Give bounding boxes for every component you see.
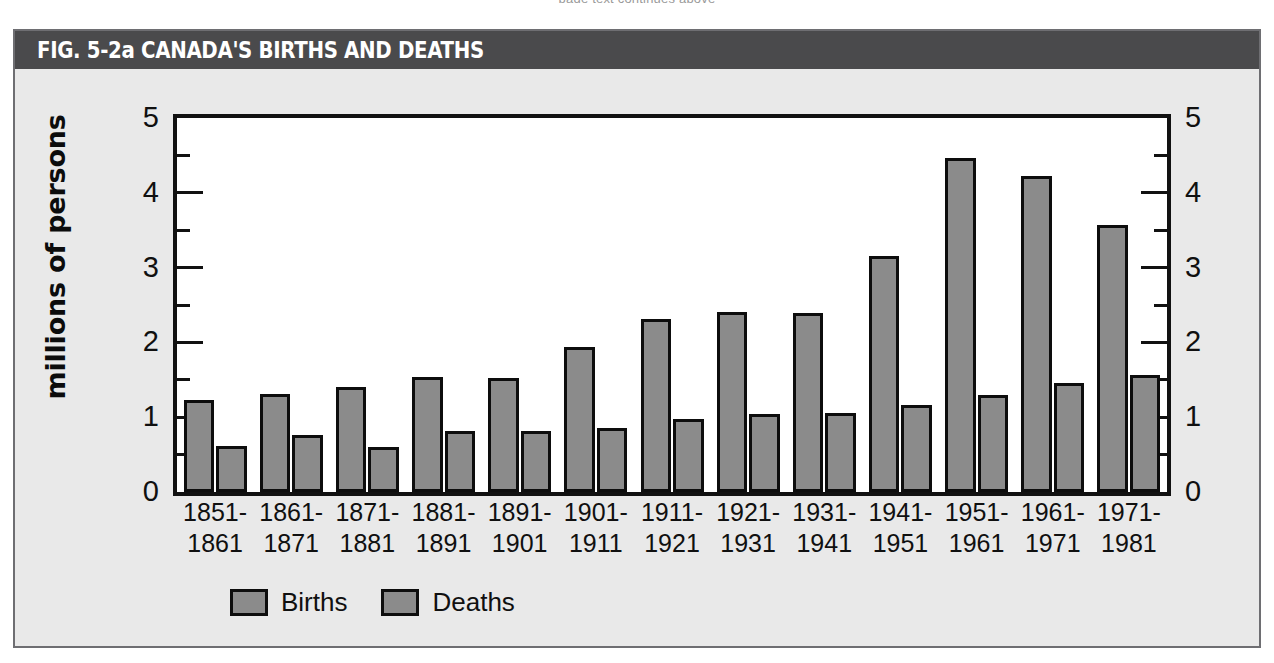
x-axis-label-line: 1891	[405, 528, 481, 559]
y-axis-label-right-3: 3	[1185, 253, 1225, 282]
bar-deaths-12	[1130, 375, 1161, 492]
bar-births-0	[184, 400, 215, 492]
bar-births-1	[260, 394, 291, 492]
y-axis-minor-tick-left	[177, 229, 190, 232]
x-axis-label-line: 1881	[329, 528, 405, 559]
x-axis-label-line: 1921-	[710, 497, 786, 528]
bar-deaths-7	[749, 414, 780, 492]
x-axis-label-line: 1941	[786, 528, 862, 559]
y-axis-label-right-1: 1	[1185, 402, 1225, 431]
chart-legend: BirthsDeaths	[230, 587, 515, 618]
x-axis-label-line: 1861	[177, 528, 253, 559]
x-axis-label-line: 1871	[253, 528, 329, 559]
x-axis-label-11: 1961-1971	[1015, 497, 1091, 558]
legend-swatch-deaths	[381, 589, 419, 616]
bar-births-7	[717, 312, 748, 492]
y-axis-label-left-1: 1	[119, 402, 159, 431]
y-axis-minor-tick-left	[177, 378, 190, 381]
x-axis-label-line: 1871-	[329, 497, 405, 528]
bar-deaths-11	[1054, 383, 1085, 492]
x-axis-label-6: 1911-1921	[634, 497, 710, 558]
legend-label-deaths: Deaths	[432, 587, 514, 618]
y-axis-label-left-3: 3	[119, 253, 159, 282]
x-axis-label-line: 1981	[1091, 528, 1167, 559]
bar-births-4	[488, 378, 519, 492]
x-axis-label-1: 1861-1871	[253, 497, 329, 558]
bar-deaths-10	[978, 395, 1009, 492]
x-axis-label-line: 1961-	[1015, 497, 1091, 528]
x-axis-label-9: 1941-1951	[862, 497, 938, 558]
bar-deaths-2	[368, 447, 399, 492]
x-axis-label-3: 1881-1891	[405, 497, 481, 558]
x-axis-label-line: 1941-	[862, 497, 938, 528]
y-axis-minor-tick-left	[177, 154, 190, 157]
bar-deaths-0	[216, 446, 247, 492]
page-bleed-text: page text continues above	[0, 0, 1274, 3]
legend-swatch-births	[230, 589, 268, 616]
figure-title-bar: FIG. 5-2a CANADA'S BIRTHS AND DEATHS	[15, 31, 1259, 69]
bar-births-9	[869, 256, 900, 492]
bar-deaths-8	[825, 413, 856, 492]
legend-label-births: Births	[281, 587, 347, 618]
x-axis-label-line: 1891-	[482, 497, 558, 528]
legend-item-births[interactable]: Births	[230, 587, 347, 618]
y-axis-label-left-0: 0	[119, 477, 159, 506]
legend-item-deaths[interactable]: Deaths	[381, 587, 514, 618]
bar-births-10	[945, 158, 976, 492]
bar-births-3	[412, 377, 443, 492]
x-axis-label-line: 1961	[939, 528, 1015, 559]
bar-deaths-4	[521, 431, 552, 492]
y-axis-minor-tick-right	[1154, 304, 1167, 307]
x-axis-label-line: 1911	[558, 528, 634, 559]
x-axis-label-7: 1921-1931	[710, 497, 786, 558]
x-axis-label-2: 1871-1881	[329, 497, 405, 558]
bar-births-6	[641, 319, 672, 492]
y-axis-tick-left	[177, 341, 203, 344]
y-axis-title: millions of persons	[40, 120, 71, 400]
plot-inner: 001122334455	[177, 118, 1167, 492]
x-axis-labels: 1851-18611861-18711871-18811881-18911891…	[177, 497, 1167, 575]
x-axis-label-line: 1861-	[253, 497, 329, 528]
bar-deaths-5	[597, 428, 628, 492]
y-axis-label-right-4: 4	[1185, 178, 1225, 207]
x-axis-label-line: 1901-	[558, 497, 634, 528]
x-axis-label-5: 1901-1911	[558, 497, 634, 558]
x-axis-label-line: 1931-	[786, 497, 862, 528]
y-axis-minor-tick-right	[1154, 229, 1167, 232]
bar-births-5	[564, 347, 595, 492]
y-axis-label-left-5: 5	[119, 103, 159, 132]
x-axis-label-10: 1951-1961	[939, 497, 1015, 558]
x-axis-label-line: 1901	[482, 528, 558, 559]
x-axis-label-line: 1921	[634, 528, 710, 559]
y-axis-label-right-2: 2	[1185, 327, 1225, 356]
y-axis-label-left-2: 2	[119, 327, 159, 356]
y-axis-tick-right	[1141, 191, 1167, 194]
x-axis-label-12: 1971-1981	[1091, 497, 1167, 558]
x-axis-label-line: 1971-	[1091, 497, 1167, 528]
y-axis-tick-right	[1141, 341, 1167, 344]
y-axis-tick-left	[177, 266, 203, 269]
y-axis-minor-tick-left	[177, 304, 190, 307]
y-axis-label-right-5: 5	[1185, 103, 1225, 132]
x-axis-label-0: 1851-1861	[177, 497, 253, 558]
bar-births-8	[793, 313, 824, 492]
x-axis-label-line: 1971	[1015, 528, 1091, 559]
y-axis-minor-tick-right	[1154, 154, 1167, 157]
y-axis-label-right-0: 0	[1185, 477, 1225, 506]
x-axis-label-line: 1951	[862, 528, 938, 559]
bar-deaths-3	[445, 431, 476, 492]
bar-deaths-1	[292, 435, 323, 492]
x-axis-label-4: 1891-1901	[482, 497, 558, 558]
x-axis-label-line: 1931	[710, 528, 786, 559]
x-axis-label-line: 1881-	[405, 497, 481, 528]
y-axis-label-left-4: 4	[119, 178, 159, 207]
x-axis-label-8: 1931-1941	[786, 497, 862, 558]
bar-deaths-9	[901, 405, 932, 492]
figure-frame: FIG. 5-2a CANADA'S BIRTHS AND DEATHS mil…	[13, 29, 1261, 648]
chart-body: millions of persons 001122334455 1851-18…	[15, 69, 1259, 650]
y-axis-tick-right	[1141, 266, 1167, 269]
x-axis-label-line: 1851-	[177, 497, 253, 528]
figure-title: FIG. 5-2a CANADA'S BIRTHS AND DEATHS	[37, 37, 484, 63]
x-axis-label-line: 1911-	[634, 497, 710, 528]
x-axis-label-line: 1951-	[939, 497, 1015, 528]
